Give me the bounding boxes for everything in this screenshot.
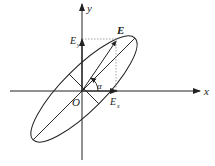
origin-label: O (72, 96, 80, 108)
y-axis-label: y (86, 2, 92, 14)
svg-text:x: x (116, 103, 120, 109)
e-vector-label: E (116, 24, 124, 36)
polarization-ellipse (18, 23, 150, 155)
svg-text:E: E (109, 96, 116, 107)
svg-text:y: y (76, 42, 80, 48)
polarization-ellipse-diagram: y x O E α E x E y (0, 0, 215, 166)
svg-text:E: E (69, 35, 76, 46)
x-axis-label: x (203, 85, 209, 97)
ex-label: E x (109, 96, 120, 109)
ey-label: E y (69, 35, 80, 48)
angle-label: α (97, 81, 102, 91)
